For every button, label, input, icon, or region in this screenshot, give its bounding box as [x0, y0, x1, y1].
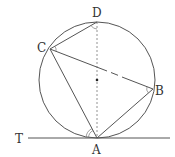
label-c: C	[37, 41, 46, 55]
angle-mark-d	[91, 26, 97, 30]
segment-cb-part2	[111, 73, 118, 76]
label-b: B	[155, 84, 164, 98]
geometry-diagram: D C B A T	[0, 0, 175, 157]
segment-cb-part3	[122, 77, 153, 89]
label-t: T	[15, 132, 23, 146]
segment-cd	[50, 22, 97, 49]
segment-cb-part1	[50, 49, 107, 71]
label-d: D	[92, 6, 102, 20]
angle-mark-a	[86, 129, 92, 139]
center-point	[96, 79, 99, 82]
segment-ca	[50, 49, 97, 138]
label-a: A	[91, 143, 101, 157]
angle-mark-a-inner	[89, 131, 94, 139]
